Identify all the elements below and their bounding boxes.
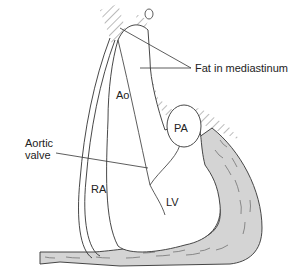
label-fat-in-mediastinum: Fat in mediastinum xyxy=(195,62,288,74)
label-aortic-valve-2: valve xyxy=(25,149,51,161)
heart-drawing xyxy=(0,0,300,271)
small-vessel-icon xyxy=(145,9,153,19)
label-aortic-valve-1: Aortic xyxy=(25,137,53,149)
label-pulmonary-artery: PA xyxy=(174,122,188,134)
label-aorta: Ao xyxy=(116,89,129,101)
heart-diagram: Fat in mediastinum Ao PA Aortic valve RA… xyxy=(0,0,300,271)
label-right-atrium: RA xyxy=(91,183,106,195)
label-left-ventricle: LV xyxy=(166,196,179,208)
